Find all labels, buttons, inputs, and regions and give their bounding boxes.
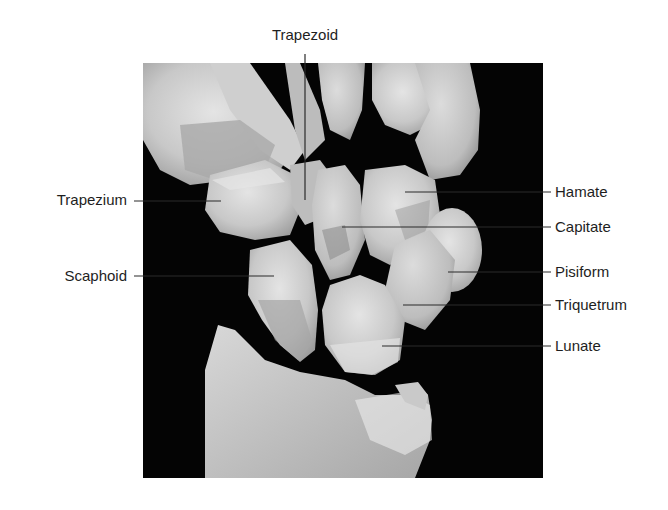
- label-pisiform: Pisiform: [555, 263, 609, 281]
- bone-illustration: [143, 63, 543, 478]
- label-triquetrum: Triquetrum: [555, 296, 627, 314]
- label-trapezoid: Trapezoid: [265, 26, 345, 44]
- label-trapezium: Trapezium: [20, 191, 127, 209]
- label-scaphoid: Scaphoid: [20, 267, 127, 285]
- label-hamate: Hamate: [555, 183, 608, 201]
- label-lunate: Lunate: [555, 337, 601, 355]
- carpal-bones-figure: Trapezoid Trapezium Scaphoid Hamate Capi…: [0, 0, 668, 510]
- label-capitate: Capitate: [555, 218, 611, 236]
- wrist-bone-render: [143, 63, 543, 478]
